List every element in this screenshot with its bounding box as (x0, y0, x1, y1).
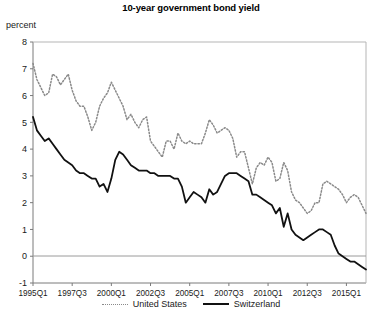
y-tick-label: -1 (19, 278, 27, 288)
y-tick-label: 7 (22, 64, 27, 74)
y-tick-label: 0 (22, 251, 27, 261)
y-tick-label: 8 (22, 37, 27, 47)
dotted-line-swatch-icon (102, 304, 128, 305)
x-tick-label: 1995Q1 (18, 289, 48, 298)
x-tick-label: 2007Q3 (214, 289, 244, 298)
legend-label-switzerland: Switzerland (234, 299, 281, 309)
x-tick-label: 2015Q1 (332, 289, 362, 298)
series-line-united-states (33, 63, 366, 213)
legend-entry-switzerland: Switzerland (203, 299, 281, 309)
series-line-switzerland (33, 117, 366, 270)
x-tick-label: 2010Q1 (253, 289, 283, 298)
chart-legend: United States Switzerland (0, 299, 382, 309)
x-tick-label: 2012Q3 (293, 289, 323, 298)
bond-yield-chart: 10-year government bond yield percent 87… (0, 0, 382, 320)
y-axis-ticks: 876543210-1 (19, 37, 33, 288)
y-tick-label: 4 (22, 144, 27, 154)
y-tick-label: 1 (22, 225, 27, 235)
data-series-group (33, 63, 366, 269)
x-tick-label: 1997Q3 (58, 289, 88, 298)
x-tick-label: 2002Q3 (136, 289, 166, 298)
x-axis-ticks: 1995Q11997Q32000Q12002Q32005Q12007Q32010… (18, 283, 361, 298)
solid-line-swatch-icon (203, 303, 229, 305)
x-tick-label: 2005Q1 (175, 289, 205, 298)
axis-lines (33, 42, 366, 283)
plot-area: 876543210-1 1995Q11997Q32000Q12002Q32005… (0, 0, 382, 320)
y-tick-label: 6 (22, 91, 27, 101)
x-tick-label: 2000Q1 (97, 289, 127, 298)
y-tick-label: 2 (22, 198, 27, 208)
y-tick-label: 5 (22, 118, 27, 128)
legend-entry-united-states: United States (102, 299, 187, 309)
legend-label-united-states: United States (133, 299, 187, 309)
y-tick-label: 3 (22, 171, 27, 181)
